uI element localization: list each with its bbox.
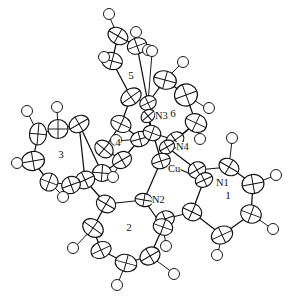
ring-label-group: 1 2 3 4 5 6 xyxy=(58,69,231,233)
ring-label-4: 4 xyxy=(115,136,121,148)
ortep-figure: Cu N1 N2 N3 N4 1 2 3 4 5 6 xyxy=(0,0,296,303)
atom-label-n4: N4 xyxy=(176,141,190,152)
atom-label-n3: N3 xyxy=(155,110,168,121)
ring-label-3: 3 xyxy=(58,148,64,160)
atom-label-cu: Cu xyxy=(168,163,181,174)
ring-label-5: 5 xyxy=(128,69,134,81)
ortep-structure-drawing: Cu N1 N2 N3 N4 1 2 3 4 5 6 xyxy=(0,0,296,303)
ring-label-6: 6 xyxy=(170,107,176,119)
atom-label-n2: N2 xyxy=(152,194,165,205)
carbon-thermal-ellipsoids xyxy=(20,24,265,274)
atom-label-n1: N1 xyxy=(216,177,229,188)
ring-label-2: 2 xyxy=(126,221,132,233)
hydrogen-bond-lines xyxy=(19,16,274,283)
ring-label-1: 1 xyxy=(225,189,231,201)
